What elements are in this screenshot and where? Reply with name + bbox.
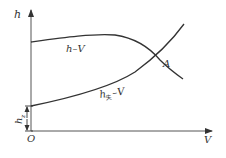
hz-label: h z <box>13 114 26 124</box>
svg-text:–V: –V <box>112 85 127 98</box>
pump-curve <box>31 35 183 79</box>
x-axis-label: V <box>204 134 213 145</box>
pump-system-diagram: h V O h–V h 失 –V A h z <box>0 0 226 158</box>
svg-text:失: 失 <box>106 93 113 102</box>
intersection-label: A <box>162 58 170 69</box>
origin-label: O <box>27 133 35 144</box>
y-axis-label: h <box>14 8 21 21</box>
svg-text:z: z <box>19 114 26 119</box>
pump-curve-label: h–V <box>66 43 86 54</box>
system-curve-label: h 失 –V <box>99 85 128 103</box>
